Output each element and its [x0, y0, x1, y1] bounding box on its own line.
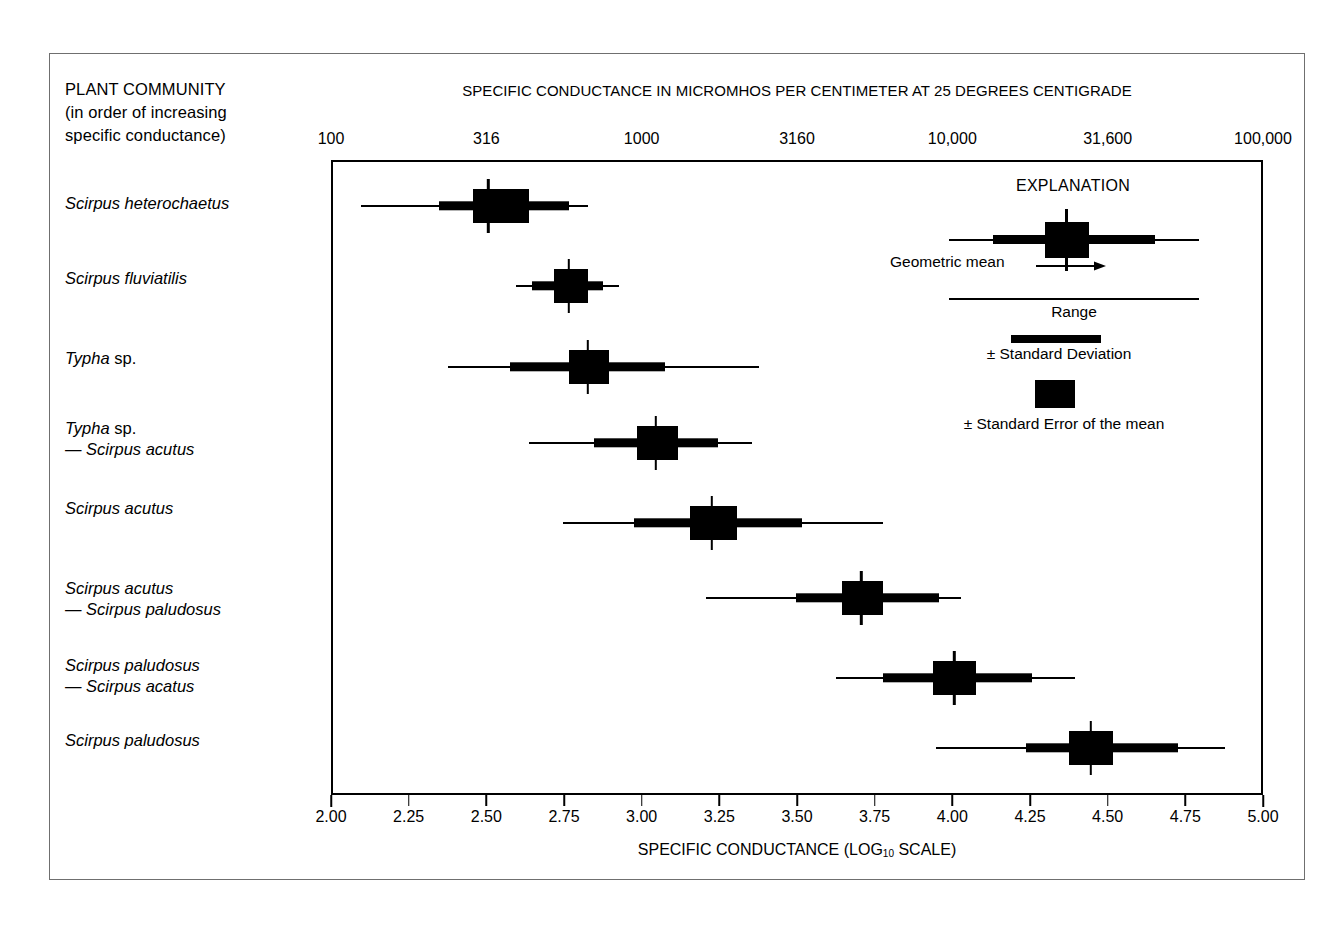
boxplot-glyph: [333, 162, 1265, 163]
plant-community-label: Scirpus paludosus: [65, 730, 327, 751]
bottom-axis-tick: [796, 795, 798, 806]
geometric-mean-tick: [487, 179, 489, 233]
bottom-axis-ticks: [331, 795, 1263, 807]
bottom-tick-label: 4.50: [1092, 808, 1123, 826]
bottom-tick-label: 2.00: [315, 808, 346, 826]
bottom-axis-tick: [1107, 795, 1109, 806]
legend-arrow-icon: [1036, 261, 1106, 271]
standard-error-box: [842, 581, 882, 615]
plant-community-label: Typha sp.— Scirpus acutus: [65, 418, 327, 460]
bottom-tick-label: 3.25: [704, 808, 735, 826]
geometric-mean-tick: [860, 571, 862, 625]
bottom-axis-tick: [1262, 795, 1264, 807]
bottom-tick-label: 4.00: [937, 808, 968, 826]
plant-community-label: Scirpus acutus: [65, 498, 327, 519]
geometric-mean-tick: [655, 416, 657, 470]
geometric-mean-tick: [711, 496, 713, 550]
plant-community-label: Scirpus acutus— Scirpus paludosus: [65, 578, 327, 620]
bottom-tick-label: 2.25: [393, 808, 424, 826]
bottom-axis-title-subscript: 10: [883, 848, 894, 859]
top-tick-label: 100: [318, 130, 345, 148]
geometric-mean-tick: [587, 340, 589, 394]
bottom-tick-label: 3.75: [859, 808, 890, 826]
plant-community-header-line-2: (in order of increasing: [65, 101, 315, 124]
bottom-axis-tick: [1185, 795, 1187, 806]
bottom-tick-label: 2.75: [548, 808, 579, 826]
standard-error-box: [554, 269, 588, 303]
top-tick-label: 31,600: [1083, 130, 1132, 148]
top-tick-label: 3160: [779, 130, 815, 148]
top-tick-label: 1000: [624, 130, 660, 148]
standard-error-box: [569, 350, 609, 384]
top-tick-label: 316: [473, 130, 500, 148]
legend-geometric-mean-label: Geometric mean: [890, 253, 1005, 271]
bottom-tick-label: 2.50: [471, 808, 502, 826]
legend-sd-swatch: [1011, 335, 1101, 343]
top-tick-label: 10,000: [928, 130, 977, 148]
legend-range-swatch: [949, 298, 1199, 300]
bottom-axis-tick: [330, 795, 332, 807]
bottom-axis-tick: [874, 795, 876, 806]
plant-community-header-line-3: specific conductance): [65, 124, 315, 147]
bottom-axis-title-tail: SCALE): [898, 841, 956, 858]
legend-range-label: Range: [949, 303, 1199, 321]
bottom-axis-title-main: SPECIFIC CONDUCTANCE (LOG: [638, 841, 883, 858]
standard-error-box: [637, 426, 677, 460]
bottom-axis-tick: [719, 795, 721, 806]
bottom-tick-label: 4.75: [1170, 808, 1201, 826]
plant-community-label: Scirpus paludosus— Scirpus acatus: [65, 655, 327, 697]
geometric-mean-tick: [1090, 721, 1092, 775]
bottom-tick-label: 3.50: [781, 808, 812, 826]
bottom-tick-label: 3.00: [626, 808, 657, 826]
bottom-axis-tick: [1029, 795, 1031, 806]
bottom-axis-tick: [563, 795, 565, 806]
plant-community-header-line-1: PLANT COMMUNITY: [65, 78, 315, 101]
legend-se-label: ± Standard Error of the mean: [899, 415, 1229, 433]
bottom-tick-label: 4.25: [1014, 808, 1045, 826]
bottom-tick-label: 5.00: [1247, 808, 1278, 826]
legend-se-swatch: [1035, 380, 1075, 408]
standard-error-box: [473, 189, 529, 223]
plant-community-label: Scirpus fluviatilis: [65, 268, 327, 289]
geometric-mean-tick: [568, 259, 570, 313]
plant-community-label: Scirpus heterochaetus: [65, 193, 327, 214]
figure-root: PLANT COMMUNITY (in order of increasing …: [0, 0, 1344, 932]
explanation-legend: EXPLANATION Geometric mean Range ± Stand…: [893, 177, 1253, 467]
plant-community-label: Typha sp.: [65, 348, 327, 369]
bottom-axis-tick: [641, 795, 643, 806]
bottom-axis-tick: [486, 795, 488, 806]
geometric-mean-tick: [953, 651, 955, 705]
bottom-axis-tick: [408, 795, 410, 806]
plot-area: EXPLANATION Geometric mean Range ± Stand…: [331, 160, 1263, 795]
bottom-axis-title: SPECIFIC CONDUCTANCE (LOG10 SCALE): [331, 841, 1263, 859]
top-axis-title: SPECIFIC CONDUCTANCE IN MICROMHOS PER CE…: [331, 82, 1263, 99]
explanation-title: EXPLANATION: [893, 177, 1253, 195]
legend-sd-label: ± Standard Deviation: [919, 345, 1199, 363]
top-tick-label: 100,000: [1234, 130, 1292, 148]
bottom-axis-tick: [952, 795, 954, 806]
plant-community-header: PLANT COMMUNITY (in order of increasing …: [65, 78, 315, 147]
standard-error-box: [690, 506, 737, 540]
